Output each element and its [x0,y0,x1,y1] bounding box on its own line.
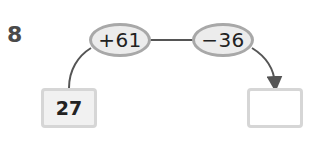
operation-oval-subtract: −36 [192,23,254,57]
operation-label: +61 [98,28,142,52]
operation-label: −36 [201,28,245,52]
operation-oval-add: +61 [89,23,151,57]
start-value-box: 27 [41,88,97,128]
start-value: 27 [56,97,82,119]
answer-box[interactable] [247,88,303,128]
start-to-op1-curve [69,48,91,88]
op2-to-answer-arrow [252,48,275,84]
